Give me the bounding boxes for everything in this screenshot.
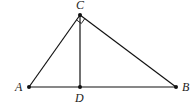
point-c [78,13,82,17]
label-a: A [14,80,23,94]
label-d: D [74,91,84,105]
label-b: B [182,80,190,94]
segment-ac [29,15,80,87]
geometry-diagram: C A D B [0,0,196,106]
point-b [174,85,178,89]
label-c: C [76,0,85,12]
right-angle-marker-icon [77,19,85,24]
point-a [27,85,31,89]
point-d [78,85,82,89]
segment-cb [80,15,176,87]
triangle-figure: C A D B [0,0,196,106]
